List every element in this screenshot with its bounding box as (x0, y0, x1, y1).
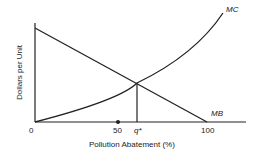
y-axis-label: Dollars per Unit (15, 38, 24, 108)
mb-label: MB (211, 110, 223, 118)
tick-qstar: q* (134, 127, 142, 135)
tick-zero: 0 (29, 127, 33, 135)
mb-curve (35, 28, 207, 122)
tick-hundred: 100 (201, 127, 214, 135)
mc-label: MC (226, 6, 238, 14)
x-axis-label: Pollution Abatement (%) (89, 141, 175, 149)
abatement-diagram (0, 0, 258, 154)
fifty-dot (116, 120, 120, 124)
tick-fifty: 50 (113, 127, 122, 135)
mc-curve (35, 13, 223, 122)
